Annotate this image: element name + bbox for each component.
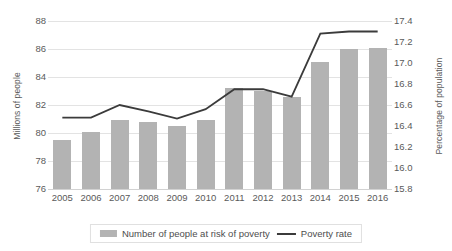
y-axis-left-tick-label: 80: [6, 128, 46, 138]
x-axis-line: [48, 189, 392, 190]
y-axis-right-tick-label: 17.0: [394, 58, 413, 68]
chart-container: Millions of people 88868482807876 200520…: [0, 0, 452, 251]
legend-item[interactable]: Poverty rate: [277, 228, 352, 239]
y-axis-right-tick-label: 16.0: [394, 163, 413, 173]
y-axis-right-tick-label: 16.4: [394, 121, 413, 131]
y-axis-left-ticks: 88868482807876: [0, 0, 46, 251]
legend-label: Number of people at risk of poverty: [122, 228, 270, 239]
y-axis-left-tick-label: 76: [6, 184, 46, 194]
legend-label: Poverty rate: [301, 228, 352, 239]
y-axis-left-tick-label: 86: [6, 44, 46, 54]
y-axis-right-tick-label: 16.6: [394, 100, 413, 110]
legend-item[interactable]: Number of people at risk of poverty: [100, 228, 270, 239]
x-axis-tick-label: 2016: [363, 193, 392, 203]
chart-legend: Number of people at risk of povertyPover…: [90, 224, 362, 243]
x-axis-tick-label: 2011: [220, 193, 249, 203]
x-axis-tick-label: 2007: [105, 193, 134, 203]
legend-bar-swatch-icon: [100, 230, 117, 237]
legend-line-swatch-icon: [277, 233, 296, 235]
y-axis-right-tick-label: 17.4: [394, 16, 413, 26]
line-series: [48, 21, 392, 189]
y-axis-left-tick-label: 88: [6, 16, 46, 26]
x-axis-tick-label: 2005: [48, 193, 77, 203]
y-axis-right-tick-label: 15.8: [394, 184, 413, 194]
y-axis-right-tick-label: 16.2: [394, 142, 413, 152]
y-axis-right-tick-label: 16.8: [394, 79, 413, 89]
y-axis-right-title: Percentage of population: [434, 44, 444, 168]
x-axis-tick-label: 2012: [249, 193, 278, 203]
x-axis-tick-label: 2010: [191, 193, 220, 203]
y-axis-left-tick-label: 82: [6, 100, 46, 110]
y-axis-right-tick-label: 17.2: [394, 37, 413, 47]
y-axis-left-tick-label: 84: [6, 72, 46, 82]
x-axis-tick-label: 2013: [277, 193, 306, 203]
x-axis-tick-label: 2009: [163, 193, 192, 203]
x-axis-tick-label: 2006: [77, 193, 106, 203]
x-axis-tick-label: 2015: [335, 193, 364, 203]
x-axis-tick-label: 2014: [306, 193, 335, 203]
plot-area: [48, 21, 392, 189]
x-axis-ticks: 2005200620072008200920102011201220132014…: [48, 193, 392, 209]
y-axis-left-tick-label: 78: [6, 156, 46, 166]
x-axis-tick-label: 2008: [134, 193, 163, 203]
